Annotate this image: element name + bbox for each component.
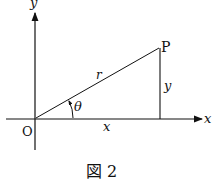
y-axis-label: y: [29, 0, 38, 10]
figure-caption: 図 2: [86, 162, 117, 181]
horizontal-leg-label: x: [103, 119, 111, 134]
origin-label: O: [22, 124, 33, 139]
angle-label: θ: [74, 99, 82, 114]
angle-arc-icon: [69, 101, 73, 118]
radius-line: [36, 48, 159, 118]
x-axis-label: x: [204, 111, 212, 126]
vertical-leg-label: y: [163, 78, 172, 93]
point-label: P: [161, 39, 170, 55]
polar-coordinates-diagram: y x O P r θ y x 図 2: [0, 0, 215, 184]
